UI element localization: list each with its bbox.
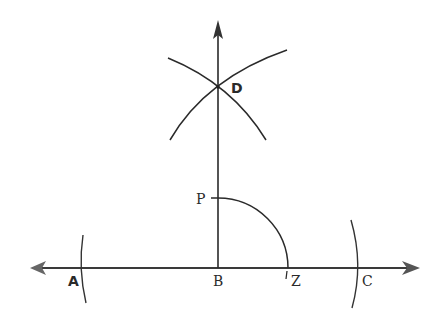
arc-at-a bbox=[81, 235, 86, 303]
quarter-arc-pz bbox=[211, 198, 288, 268]
z-tick bbox=[286, 271, 287, 279]
label-a: A bbox=[68, 273, 79, 289]
line-bd bbox=[213, 20, 223, 268]
label-d: D bbox=[231, 80, 243, 96]
point-d-dot bbox=[216, 85, 220, 89]
arc-at-c bbox=[351, 220, 358, 308]
label-p: P bbox=[196, 191, 205, 207]
label-z: Z bbox=[291, 273, 301, 289]
label-c: C bbox=[362, 273, 373, 289]
label-b: B bbox=[213, 273, 223, 289]
geometric-construction-diagram: D P A B Z C bbox=[0, 0, 447, 324]
arc-from-a-through-d bbox=[168, 58, 266, 140]
